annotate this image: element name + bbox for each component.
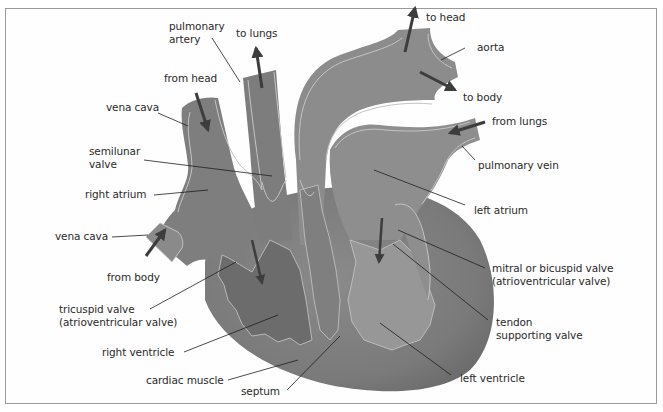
label-septum: septum [241,385,280,398]
label-vena-cava-top: vena cava [106,101,159,114]
label-pulmonary-vein: pulmonary vein [478,159,559,172]
label-cardiac-muscle: cardiac muscle [146,374,224,387]
label-tendon: tendon supporting valve [496,316,583,342]
label-semilunar-valve: semilunar valve [89,145,140,171]
label-right-ventricle: right ventricle [102,346,174,359]
label-to-lungs: to lungs [236,27,277,40]
label-to-body: to body [463,91,502,104]
label-from-head: from head [164,72,217,85]
label-right-atrium: right atrium [85,188,146,201]
label-pulmonary-artery: pulmonary artery [169,20,225,46]
label-from-body: from body [107,271,160,284]
label-to-head: to head [426,11,465,24]
label-mitral-valve: mitral or bicuspid valve (atrioventricul… [492,262,613,288]
label-left-atrium: left atrium [474,204,528,217]
label-vena-cava-bottom: vena cava [55,230,108,243]
label-left-ventricle: left ventricle [460,372,525,385]
label-aorta: aorta [477,41,504,54]
label-from-lungs: from lungs [492,115,547,128]
label-tricuspid-valve: tricuspid valve (atrioventricular valve) [59,303,177,329]
heart-diagram [0,0,663,412]
